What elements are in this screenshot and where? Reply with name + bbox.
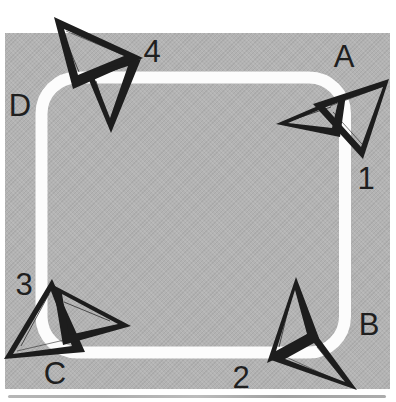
position-label-4: 4 (143, 36, 160, 67)
position-label-B: B (359, 309, 380, 340)
position-label-D: D (9, 90, 31, 121)
position-label-C: C (44, 358, 66, 389)
position-label-2: 2 (232, 362, 249, 393)
dart-bottom-left-nose-wing (53, 285, 131, 345)
figure-canvas: 4 A D 1 3 B C 2 (0, 0, 396, 402)
position-label-A: A (334, 41, 355, 72)
scan-artifact-line (8, 395, 386, 398)
dart-bottom-right-crease (279, 294, 292, 347)
position-label-1: 1 (357, 163, 374, 194)
dart-top-left-crease (66, 31, 121, 54)
position-label-3: 3 (15, 269, 32, 300)
